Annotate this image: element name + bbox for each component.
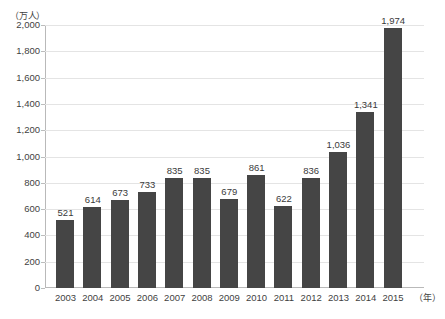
bar-group: 1,341: [352, 25, 379, 288]
x-axis-tick-labels: 2003200420052006200720082009201020112012…: [45, 292, 445, 308]
y-axis-tick-label: 200: [0, 257, 40, 267]
bar: [384, 28, 402, 288]
bar: [274, 206, 292, 288]
bar-group: 622: [270, 25, 297, 288]
bar-group: 1,974: [380, 25, 407, 288]
y-axis-tick-label: 400: [0, 230, 40, 240]
bar: [193, 178, 211, 288]
bar-group: 614: [79, 25, 106, 288]
y-axis-tick-label: 1,400: [0, 99, 40, 109]
bar: [56, 220, 74, 289]
y-axis-tick-label: 0: [0, 283, 40, 293]
y-axis-tick-label: 1,000: [0, 152, 40, 162]
x-axis-tick-label: 2015: [374, 292, 413, 304]
bar: [356, 112, 374, 288]
bar-group: 521: [52, 25, 79, 288]
bar: [302, 178, 320, 288]
bar: [247, 175, 265, 288]
y-axis-tick-label: 600: [0, 204, 40, 214]
bar-group: 835: [161, 25, 188, 288]
bar-group: 679: [216, 25, 243, 288]
bar: [138, 192, 156, 288]
y-axis-tick-label: 2,000: [0, 20, 40, 30]
bar-group: 1,036: [325, 25, 352, 288]
bar: [165, 178, 183, 288]
bar-group: 673: [107, 25, 134, 288]
bar-group: 861: [243, 25, 270, 288]
bar-chart: （万人） 2,0001,8001,6001,4001,2001,00080060…: [0, 0, 445, 319]
bar: [83, 207, 101, 288]
bar-value-label: 1,974: [374, 15, 413, 26]
y-axis-tick-label: 1,200: [0, 125, 40, 135]
bar: [111, 200, 129, 288]
bar-group: 836: [298, 25, 325, 288]
y-axis-tick-label: 1,800: [0, 46, 40, 56]
bar-group: 733: [134, 25, 161, 288]
bar-series: 5216146737338358356798616228361,0361,341…: [45, 25, 424, 288]
bar-group: 835: [189, 25, 216, 288]
bar: [220, 199, 238, 288]
y-axis-tick-label: 1,600: [0, 73, 40, 83]
y-axis-tick-label: 800: [0, 178, 40, 188]
x-axis-unit-label: （年）: [414, 292, 441, 304]
bar: [329, 152, 347, 288]
